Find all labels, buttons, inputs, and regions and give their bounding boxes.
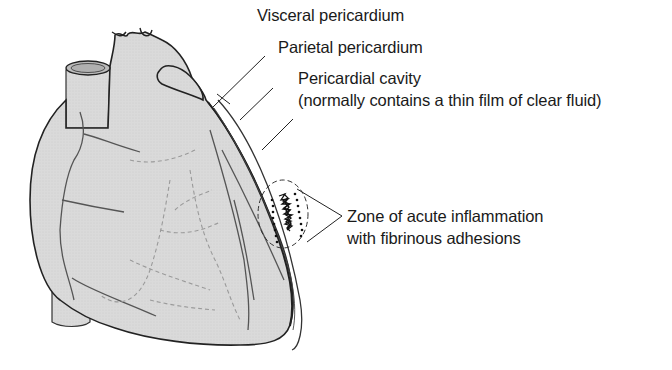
pericardium-diagram: Visceral pericardium Parietal pericardiu… bbox=[0, 0, 672, 370]
label-pericardial-cavity: Pericardial cavity bbox=[298, 68, 421, 88]
leader-visceral bbox=[212, 56, 265, 108]
label-inflammation-zone: Zone of acute inflammation bbox=[347, 206, 543, 226]
label-pericardial-cavity-note: (normally contains a thin film of clear … bbox=[298, 90, 602, 110]
leader-cavity bbox=[262, 119, 293, 150]
label-fibrinous-adhesions: with fibrinous adhesions bbox=[347, 228, 521, 248]
leader-parietal bbox=[240, 88, 273, 120]
label-visceral-pericardium: Visceral pericardium bbox=[257, 5, 404, 25]
label-parietal-pericardium: Parietal pericardium bbox=[278, 37, 423, 57]
